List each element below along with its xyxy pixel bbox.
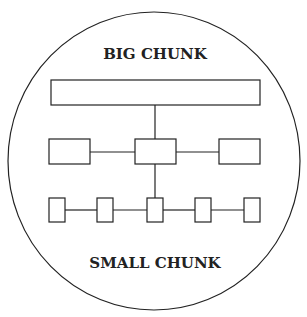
small-chunk-label: SMALL CHUNK (89, 254, 221, 272)
small-chunk-box-3 (147, 198, 163, 222)
medium-chunk-box-center (135, 139, 176, 164)
small-chunk-box-4 (195, 198, 211, 222)
small-chunk-box-5 (244, 198, 260, 222)
small-chunk-box-1 (49, 198, 65, 222)
big-chunk-box (51, 80, 260, 105)
medium-chunk-box-left (49, 139, 90, 164)
small-chunk-box-2 (97, 198, 113, 222)
chunk-hierarchy-diagram: BIG CHUNK SMALL CHUNK (0, 0, 307, 317)
big-chunk-label: BIG CHUNK (103, 45, 208, 63)
medium-chunk-box-right (219, 139, 260, 164)
